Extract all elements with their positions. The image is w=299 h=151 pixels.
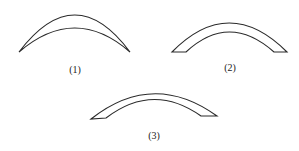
- shape-label-1: (1): [69, 65, 81, 75]
- crescent-shape-1: [19, 15, 130, 52]
- shape-label-2: (2): [224, 63, 236, 73]
- arch-band-shape-2: [172, 23, 287, 52]
- shape-label-3: (3): [148, 131, 160, 141]
- arch-band-shape-3: [91, 94, 217, 119]
- figure-canvas: [0, 0, 299, 151]
